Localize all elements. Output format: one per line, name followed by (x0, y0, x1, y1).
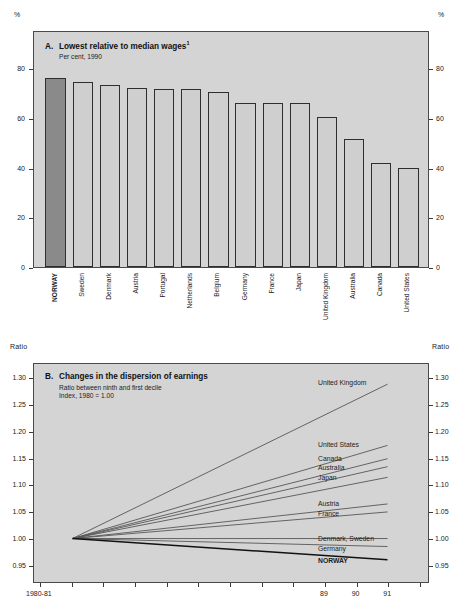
xtick-mark (388, 583, 389, 587)
xtick-label: 90 (352, 590, 360, 597)
ytick-mark (429, 119, 433, 120)
ytick-label: 1.30 (0, 374, 26, 381)
ytick-mark (429, 378, 433, 379)
bar-denmark (100, 85, 120, 267)
ytick-label: 1.05 (0, 508, 26, 515)
line-australia (72, 467, 387, 539)
bar-france (263, 103, 283, 267)
bar-portugal (154, 89, 174, 267)
xaxis-label-united-kingdom: United Kingdom (322, 273, 329, 320)
ytick-label: 20 (0, 214, 25, 221)
ytick-label: 1.15 (0, 455, 26, 462)
ytick-mark (29, 218, 33, 219)
xtick-label: 89 (320, 590, 328, 597)
series-label-united-states: United States (318, 441, 359, 448)
series-label-united-kingdom: United Kingdom (318, 379, 366, 386)
ytick-label: 0 (436, 264, 440, 271)
ytick-mark (429, 218, 433, 219)
panel-a-bars (34, 32, 428, 267)
ytick-mark (29, 69, 33, 70)
ytick-mark (29, 268, 33, 269)
xtick-mark (420, 583, 421, 587)
ytick-label: 1.20 (435, 428, 449, 435)
xtick-mark (230, 583, 231, 587)
line-austria (72, 504, 387, 539)
series-label-norway: NORWAY (318, 557, 348, 564)
xaxis-label-denmark: Denmark (105, 273, 112, 300)
ytick-mark (429, 405, 433, 406)
xaxis-label-canada: Canada (376, 273, 383, 296)
ytick-mark (29, 119, 33, 120)
series-label-japan: Japan (318, 474, 337, 481)
ytick-label: 1.25 (0, 401, 26, 408)
series-label-france: France (318, 510, 339, 517)
ytick-mark (429, 512, 433, 513)
xtick-mark (167, 583, 168, 587)
ytick-mark (29, 485, 33, 486)
bar-austria (127, 88, 147, 267)
xtick-mark (357, 583, 358, 587)
ytick-mark (29, 405, 33, 406)
ytick-mark (29, 459, 33, 460)
ytick-label: 40 (436, 165, 444, 172)
panel-b-series-lines (34, 364, 428, 582)
bar-japan (290, 103, 310, 267)
ytick-mark (29, 566, 33, 567)
bar-united-kingdom (317, 117, 337, 267)
bar-germany (235, 103, 255, 267)
xtick-label: 91 (383, 590, 391, 597)
xtick-label: 1980-81 (26, 590, 52, 597)
ytick-mark (429, 169, 433, 170)
bar-united-states (398, 168, 418, 268)
panel-a-unit-right: % (438, 11, 444, 18)
ytick-mark (429, 268, 433, 269)
ytick-mark (429, 69, 433, 70)
ytick-label: 60 (0, 115, 25, 122)
ytick-label: 1.00 (0, 535, 26, 542)
bar-netherlands (181, 89, 201, 267)
series-label-germany: Germany (318, 545, 346, 552)
ytick-label: 1.10 (435, 481, 449, 488)
bar-sweden (73, 82, 93, 267)
ytick-mark (29, 512, 33, 513)
line-japan (72, 477, 387, 538)
xtick-mark (40, 583, 41, 587)
ytick-label: 1.05 (435, 508, 449, 515)
panel-b-unit-left: Ratio (10, 343, 27, 350)
panel-a-unit-left: % (14, 11, 20, 18)
series-label-denmark-sweden: Denmark, Sweden (318, 535, 374, 542)
bar-australia (344, 139, 364, 267)
xaxis-label-germany: Germany (241, 273, 248, 300)
xtick-mark (198, 583, 199, 587)
ytick-mark (429, 539, 433, 540)
xaxis-label-japan: Japan (295, 273, 302, 291)
panel-b-line-chart: B.Changes in the dispersion of earnings … (33, 363, 429, 583)
ytick-label: 20 (436, 214, 444, 221)
panel-a-bar-chart: A.Lowest relative to median wages1 Per c… (33, 31, 429, 268)
series-label-canada: Canada (318, 455, 342, 462)
xtick-mark (325, 583, 326, 587)
xtick-mark (72, 583, 73, 587)
ytick-label: 0.95 (0, 562, 26, 569)
ytick-label: 1.10 (0, 481, 26, 488)
ytick-label: 1.25 (435, 401, 449, 408)
ytick-mark (429, 485, 433, 486)
panel-b-unit-right: Ratio (432, 343, 449, 350)
bar-canada (371, 163, 391, 267)
xaxis-label-portugal: Portugal (159, 273, 166, 298)
bar-belgium (208, 92, 228, 267)
ytick-mark (29, 539, 33, 540)
figure-root: % % A.Lowest relative to median wages1 P… (0, 0, 465, 613)
ytick-label: 80 (0, 65, 25, 72)
ytick-label: 0 (0, 264, 25, 271)
xaxis-label-austria: Austria (132, 273, 139, 294)
ytick-mark (429, 566, 433, 567)
xtick-mark (262, 583, 263, 587)
xtick-mark (293, 583, 294, 587)
series-label-austria: Austria (318, 500, 339, 507)
xaxis-label-france: France (268, 273, 275, 294)
xaxis-label-sweden: Sweden (78, 273, 85, 297)
ytick-label: 1.20 (0, 428, 26, 435)
xaxis-label-united-states: United States (403, 273, 410, 313)
xtick-mark (135, 583, 136, 587)
